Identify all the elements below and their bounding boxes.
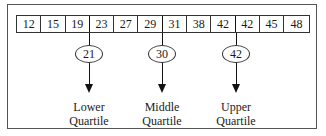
- upper-quartile-arrow-shaft: [236, 63, 238, 85]
- value-cell: 45: [260, 16, 284, 32]
- value-cell: 31: [163, 16, 187, 32]
- lower-quartile-label: Lower Quartile: [59, 100, 119, 128]
- value-cell: 27: [114, 16, 138, 32]
- value-cell: 15: [41, 16, 65, 32]
- arrow-down-icon: [85, 84, 93, 93]
- upper-quartile-value: 42: [222, 45, 250, 63]
- value-cell: 23: [90, 16, 114, 32]
- data-values-row: 12 15 19 23 27 29 31 38 42 42 45 48: [16, 15, 310, 33]
- lower-quartile-value: 21: [75, 45, 103, 63]
- middle-quartile-value: 30: [148, 45, 176, 63]
- middle-quartile-label: Middle Quartile: [132, 100, 192, 128]
- value-cell: 38: [187, 16, 211, 32]
- value-cell: 48: [284, 16, 308, 32]
- arrow-down-icon: [158, 84, 166, 93]
- value-cell: 42: [236, 16, 260, 32]
- arrow-down-icon: [232, 84, 240, 93]
- middle-quartile-connector: [162, 33, 164, 45]
- upper-quartile-connector: [236, 33, 238, 45]
- value-cell: 29: [138, 16, 162, 32]
- lower-quartile-connector: [89, 33, 91, 45]
- value-cell: 12: [17, 16, 41, 32]
- upper-quartile-label: Upper Quartile: [206, 100, 266, 128]
- middle-quartile-arrow-shaft: [162, 63, 164, 85]
- value-cell: 19: [66, 16, 90, 32]
- lower-quartile-arrow-shaft: [89, 63, 91, 85]
- value-cell: 42: [211, 16, 235, 32]
